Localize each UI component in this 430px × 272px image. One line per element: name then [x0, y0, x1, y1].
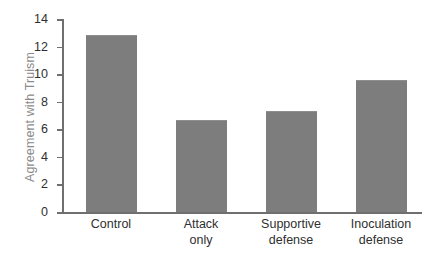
- bar: [86, 35, 137, 212]
- y-tick-label: 8: [41, 94, 48, 110]
- y-tick-label: 14: [34, 11, 48, 27]
- y-axis-line: [62, 19, 64, 212]
- y-tick-label: 6: [41, 121, 48, 137]
- y-tick-label: 4: [41, 149, 48, 165]
- bar: [266, 111, 317, 212]
- x-axis-label: Supportive defense: [242, 216, 341, 248]
- y-tick: 12: [57, 47, 62, 49]
- x-axis-label: Inoculation defense: [332, 216, 430, 248]
- y-tick: 4: [57, 157, 62, 159]
- y-tick: 8: [57, 102, 62, 104]
- y-tick-label: 2: [41, 176, 48, 192]
- plot-area: 02468101214: [62, 19, 422, 212]
- y-tick: 0: [57, 212, 62, 214]
- y-tick: 2: [57, 184, 62, 186]
- y-tick-label: 12: [34, 39, 48, 55]
- y-tick: 14: [57, 19, 62, 21]
- y-tick-label: 10: [34, 66, 48, 82]
- bar-chart: Agreement with Truism 02468101214 Contro…: [0, 0, 430, 272]
- x-axis-line: [62, 212, 422, 214]
- y-tick: 10: [57, 74, 62, 76]
- bar: [356, 80, 407, 212]
- x-axis-label: Control: [62, 216, 161, 232]
- bar: [176, 120, 227, 212]
- y-tick-label: 0: [41, 204, 48, 220]
- y-tick: 6: [57, 129, 62, 131]
- x-axis-label: Attack only: [152, 216, 251, 248]
